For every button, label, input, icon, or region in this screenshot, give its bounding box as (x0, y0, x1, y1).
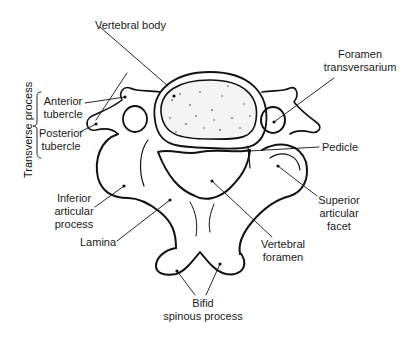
label-line: Inferior (52, 192, 96, 205)
label-line: Posterior (36, 127, 86, 140)
label-line: Anterior (40, 95, 86, 108)
superior-articular-facet-line (270, 154, 300, 170)
label-lamina: Lamina (80, 236, 116, 249)
label-line: transversarium (320, 61, 400, 74)
label-anterior-tubercle: Anterior tubercle (40, 95, 86, 121)
label-bifid-spinous-process: Bifid spinous process (158, 297, 248, 323)
left-transverse-process (87, 88, 160, 134)
label-line: facet (314, 220, 364, 233)
label-transverse-process: Transverse process (22, 82, 34, 178)
label-line: Foramen (320, 48, 400, 61)
label-line: tubercle (36, 140, 86, 153)
label-foramen-transversarium: Foramen transversarium (320, 48, 400, 74)
label-line: process (52, 218, 96, 231)
label-line: articular (314, 207, 364, 220)
label-pedicle: Pedicle (322, 141, 358, 154)
label-line: Bifid (158, 297, 248, 310)
label-line: tubercle (40, 108, 86, 121)
label-vertebral-foramen: Vertebral foramen (258, 238, 308, 264)
vertebral-body-inner (161, 80, 257, 139)
spinous-process (156, 248, 244, 275)
label-superior-articular-facet: Superior articular facet (314, 194, 364, 233)
lamina-inner-right (209, 204, 214, 232)
vertebral-foramen-outline (158, 150, 250, 199)
lamina-inner-left (190, 202, 197, 236)
label-posterior-tubercle: Posterior tubercle (36, 127, 86, 153)
label-line: articular (52, 205, 96, 218)
label-line: spinous process (158, 310, 248, 323)
label-inferior-articular-process: Inferior articular process (52, 192, 96, 231)
left-articular-inner (141, 140, 148, 186)
label-line: foramen (258, 251, 308, 264)
label-vertebral-body: Vertebral body (95, 19, 166, 32)
label-line: Superior (314, 194, 364, 207)
label-line: Vertebral (258, 238, 308, 251)
left-foramen-transversarium (123, 106, 147, 132)
